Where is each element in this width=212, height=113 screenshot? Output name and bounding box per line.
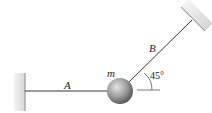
rope-a-label: A <box>64 79 71 91</box>
angle-label: 45° <box>150 70 164 81</box>
mass-label: m <box>107 67 115 79</box>
mass-ball <box>107 78 133 104</box>
left-wall-support <box>14 73 25 111</box>
diagram-canvas <box>0 0 212 113</box>
rope-b-label: B <box>149 42 156 54</box>
